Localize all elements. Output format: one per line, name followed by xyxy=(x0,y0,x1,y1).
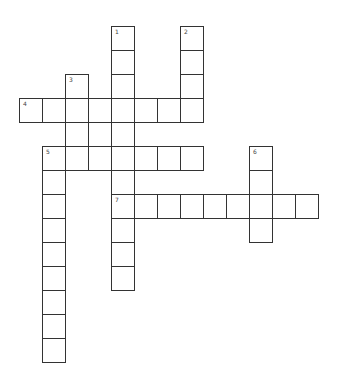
crossword-cell[interactable]: 2 xyxy=(180,26,204,51)
crossword-cell[interactable] xyxy=(111,74,135,99)
crossword-cell[interactable] xyxy=(134,146,158,171)
crossword-cell[interactable] xyxy=(157,194,181,219)
crossword-cell[interactable] xyxy=(295,194,319,219)
crossword-cell[interactable] xyxy=(42,98,66,123)
crossword-cell[interactable]: 3 xyxy=(65,74,89,99)
crossword-cell[interactable] xyxy=(42,290,66,315)
clue-number: 4 xyxy=(23,100,27,107)
crossword-cell[interactable] xyxy=(42,170,66,195)
crossword-cell[interactable] xyxy=(249,218,273,243)
crossword-cell[interactable] xyxy=(180,74,204,99)
crossword-cell[interactable] xyxy=(272,194,296,219)
crossword-cell[interactable] xyxy=(42,218,66,243)
crossword-cell[interactable] xyxy=(111,122,135,147)
clue-number: 2 xyxy=(184,28,188,35)
crossword-cell[interactable] xyxy=(134,98,158,123)
crossword-cell[interactable] xyxy=(180,50,204,75)
crossword-cell[interactable]: 4 xyxy=(19,98,43,123)
crossword-cell[interactable] xyxy=(157,98,181,123)
crossword-cell[interactable] xyxy=(180,194,204,219)
clue-number: 5 xyxy=(46,148,50,155)
clue-number: 7 xyxy=(115,196,119,203)
crossword-cell[interactable] xyxy=(111,266,135,291)
clue-number: 3 xyxy=(69,76,73,83)
crossword-cell[interactable] xyxy=(111,50,135,75)
crossword-cell[interactable] xyxy=(42,266,66,291)
crossword-cell[interactable]: 5 xyxy=(42,146,66,171)
crossword-cell[interactable] xyxy=(42,314,66,339)
crossword-cell[interactable] xyxy=(249,170,273,195)
crossword-cell[interactable] xyxy=(157,146,181,171)
crossword-cell[interactable] xyxy=(226,194,250,219)
clue-number: 1 xyxy=(115,28,119,35)
crossword-cell[interactable] xyxy=(111,146,135,171)
crossword-cell[interactable] xyxy=(249,194,273,219)
crossword-grid: 1723456 xyxy=(0,0,338,375)
crossword-cell[interactable] xyxy=(88,146,112,171)
crossword-cell[interactable] xyxy=(111,170,135,195)
crossword-cell[interactable] xyxy=(180,98,204,123)
crossword-cell[interactable] xyxy=(134,194,158,219)
crossword-cell[interactable]: 1 xyxy=(111,26,135,51)
crossword-cell[interactable]: 7 xyxy=(111,194,135,219)
clue-number: 6 xyxy=(253,148,257,155)
crossword-cell[interactable] xyxy=(203,194,227,219)
crossword-cell[interactable] xyxy=(65,98,89,123)
crossword-cell[interactable] xyxy=(42,242,66,267)
crossword-cell[interactable] xyxy=(111,242,135,267)
crossword-cell[interactable]: 6 xyxy=(249,146,273,171)
crossword-cell[interactable] xyxy=(111,218,135,243)
crossword-cell[interactable] xyxy=(180,146,204,171)
crossword-cell[interactable] xyxy=(65,146,89,171)
crossword-cell[interactable] xyxy=(42,338,66,363)
crossword-cell[interactable] xyxy=(111,98,135,123)
crossword-cell[interactable] xyxy=(88,98,112,123)
crossword-cell[interactable] xyxy=(65,122,89,147)
crossword-cell[interactable] xyxy=(42,194,66,219)
